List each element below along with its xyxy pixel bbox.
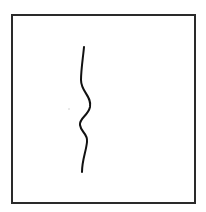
speck-dot: [68, 108, 70, 110]
wavy-line-stroke: [80, 47, 90, 172]
drawing-canvas: [0, 0, 206, 212]
